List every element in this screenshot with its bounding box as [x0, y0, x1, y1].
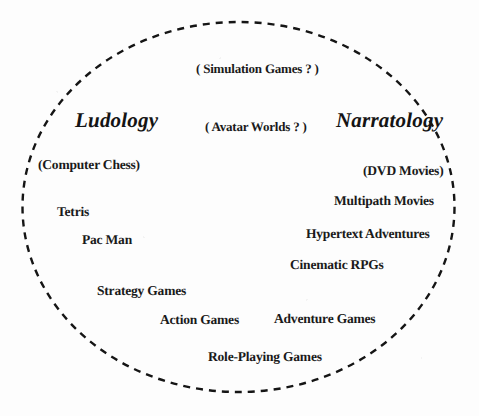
label-dvd-movies: (DVD Movies): [363, 164, 443, 178]
label-pac-man: Pac Man: [82, 233, 132, 247]
label-computer-chess: (Computer Chess): [38, 158, 140, 172]
label-simulation-games: ( Simulation Games ? ): [196, 62, 319, 75]
ludology-narratology-diagram: ( Simulation Games ? ) Ludology ( Avatar…: [0, 0, 479, 416]
label-multipath-movies: Multipath Movies: [334, 194, 434, 208]
label-avatar-worlds: ( Avatar Worlds ? ): [205, 120, 307, 133]
label-role-playing-games: Role-Playing Games: [208, 350, 322, 364]
label-adventure-games: Adventure Games: [274, 312, 375, 326]
label-action-games: Action Games: [160, 313, 239, 327]
label-hypertext-adventures: Hypertext Adventures: [306, 227, 430, 241]
pole-label-ludology: Ludology: [75, 110, 158, 131]
label-cinematic-rpgs: Cinematic RPGs: [290, 258, 384, 272]
pole-label-narratology: Narratology: [336, 110, 443, 131]
label-strategy-games: Strategy Games: [97, 284, 186, 298]
label-tetris: Tetris: [57, 205, 89, 219]
